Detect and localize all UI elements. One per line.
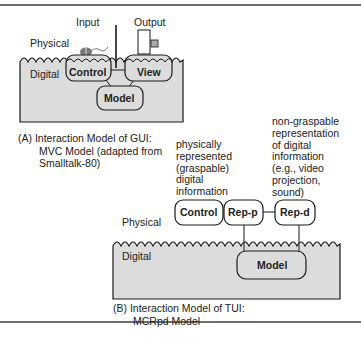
caption-b-line1: Interaction Model of TUI:: [130, 302, 245, 314]
annotation-rep-p-line: represented: [176, 151, 232, 163]
annotation-rep-d: non-graspable representation of digital …: [272, 116, 339, 199]
label-digital-a: Digital: [30, 68, 59, 80]
caption-a-line1: Interaction Model of GUI:: [35, 132, 152, 144]
label-digital-b: Digital: [122, 250, 151, 262]
caption-a: (A) Interaction Model of GUI: MVC Model …: [18, 132, 162, 170]
caption-b: (B) Interaction Model of TUI: MCRpd Mode…: [113, 302, 245, 327]
node-control-b-label: Control: [180, 206, 217, 218]
node-model-b-label: Model: [257, 259, 287, 271]
caption-a-line3: Smalltalk-80): [18, 157, 162, 170]
label-physical-a: Physical: [30, 37, 69, 49]
caption-b-prefix: (B): [113, 302, 127, 314]
node-rep-d-label: Rep-d: [280, 206, 310, 218]
caption-b-line2: MCRpd Model: [113, 315, 245, 328]
label-output: Output: [134, 16, 166, 28]
annotation-rep-d-line: representation: [272, 128, 339, 140]
monitor-icon: [138, 30, 158, 54]
annotation-rep-d-line: projection,: [272, 175, 339, 187]
node-rep-p-label: Rep-p: [228, 206, 258, 218]
annotation-rep-p: physically represented (graspable) digit…: [176, 139, 232, 198]
label-input: Input: [76, 16, 99, 28]
node-model-a-label: Model: [104, 92, 134, 104]
caption-a-line2: MVC Model (adapted from: [18, 145, 162, 158]
annotation-rep-p-line: information: [176, 186, 232, 198]
node-view-a-label: View: [137, 66, 161, 78]
label-physical-b: Physical: [122, 216, 161, 228]
annotation-rep-d-line: sound): [272, 187, 339, 199]
node-control-a-label: Control: [69, 66, 106, 78]
caption-a-prefix: (A): [18, 132, 32, 144]
